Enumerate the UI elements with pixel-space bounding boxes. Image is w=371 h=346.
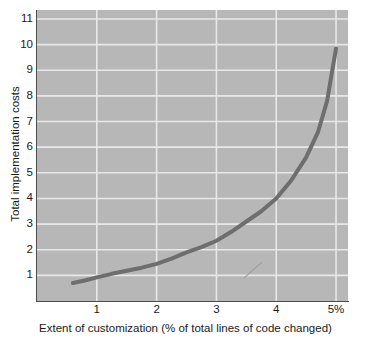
y-axis-title: Total implementation costs — [9, 54, 21, 254]
x-axis-tick-labels: 12345% — [0, 0, 371, 346]
x-tick-label-4: 4 — [273, 303, 279, 316]
chart-figure: 1234567891011 12345% Total implementatio… — [0, 0, 371, 346]
x-tick-label-3: 3 — [213, 303, 219, 316]
x-axis-title: Extent of customization (% of total line… — [0, 322, 371, 334]
x-tick-label-5: 5% — [328, 303, 345, 316]
x-tick-label-1: 1 — [94, 303, 100, 316]
x-tick-label-2: 2 — [153, 303, 159, 316]
